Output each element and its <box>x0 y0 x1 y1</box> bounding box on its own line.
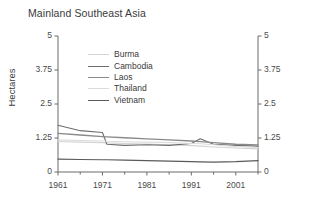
legend-item-vietnam[interactable]: Vietnam <box>88 95 153 106</box>
chart-container: Mainland Southeast Asia Hectares BurmaCa… <box>0 0 312 211</box>
x-axis-tick-label: 1991 <box>171 180 211 190</box>
legend-label: Thailand <box>114 83 147 94</box>
legend-label: Vietnam <box>114 95 145 106</box>
y-axis-tick-label-left: 3.75 <box>35 64 52 74</box>
legend-label: Burma <box>114 49 139 60</box>
legend-item-thailand[interactable]: Thailand <box>88 83 153 94</box>
y-axis-tick-label-right: 0 <box>264 166 269 176</box>
x-axis-tick-label: 1961 <box>38 180 78 190</box>
legend-swatch-cambodia <box>88 66 109 67</box>
legend-label: Cambodia <box>114 61 153 72</box>
y-axis-tick-label-left: 2.5 <box>40 98 52 108</box>
x-axis-tick-label: 1971 <box>82 180 122 190</box>
x-axis-tick-label: 1981 <box>127 180 167 190</box>
legend-item-cambodia[interactable]: Cambodia <box>88 60 153 71</box>
legend-swatch-thailand <box>88 88 109 89</box>
y-axis-tick-label-left: 1.25 <box>35 132 52 142</box>
y-axis-tick-label-right: 5 <box>264 30 269 40</box>
legend-swatch-vietnam <box>88 100 109 101</box>
y-axis-tick-label-right: 2.5 <box>264 98 276 108</box>
y-axis-tick-label-left: 5 <box>47 30 52 40</box>
y-axis-tick-label-right: 1.25 <box>264 132 281 142</box>
legend-swatch-burma <box>88 54 109 55</box>
y-axis-tick-label-left: 0 <box>47 166 52 176</box>
y-axis-tick-label-right: 3.75 <box>264 64 281 74</box>
legend-item-burma[interactable]: Burma <box>88 49 153 60</box>
series-line-laos <box>58 133 258 144</box>
legend-label: Laos <box>114 72 132 83</box>
chart-legend: BurmaCambodiaLaosThailandVietnam <box>88 49 153 106</box>
legend-swatch-laos <box>88 77 109 78</box>
series-line-vietnam <box>58 159 258 162</box>
x-axis-tick-label: 2001 <box>216 180 256 190</box>
legend-item-laos[interactable]: Laos <box>88 72 153 83</box>
